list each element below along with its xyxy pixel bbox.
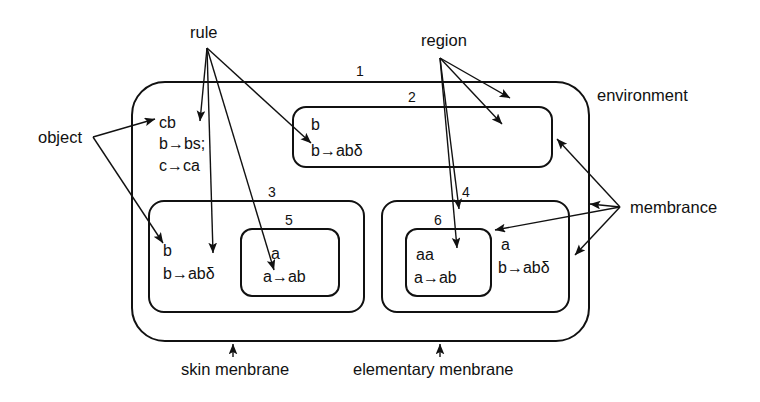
annotation-object: object	[38, 129, 82, 146]
membrane-1-rule-2: c→ca	[159, 155, 200, 176]
membrane-1-object: cb	[159, 112, 176, 133]
annotation-skin-membrane: skin menbrane	[181, 361, 289, 378]
membrane-3-rule: b→abδ	[163, 263, 215, 284]
diagram-canvas: 1 2 3 4 5 6 cb b→bs; c→ca b b→abδ b b→ab…	[0, 0, 760, 402]
annotation-environment: environment	[597, 87, 688, 104]
membrane-5-object: a	[271, 243, 280, 264]
membrane-5-rule: a→ab	[263, 266, 306, 287]
membrane-label-1: 1	[356, 64, 364, 78]
membrane-6-rule: a→ab	[414, 267, 457, 288]
membrane-1-rule-1: b→bs;	[159, 133, 205, 154]
annotation-membrance: membrance	[630, 199, 717, 216]
membrane-4-object: a	[501, 234, 510, 255]
membrane-label-4: 4	[462, 185, 470, 199]
membrane-label-2: 2	[408, 90, 416, 104]
membrane-2-object: b	[311, 114, 320, 135]
annotation-elementary-membrane: elementary menbrane	[353, 361, 514, 378]
membrane-label-3: 3	[268, 185, 276, 199]
membrane-label-5: 5	[285, 213, 293, 227]
arrow-membrance-to-skin	[590, 204, 620, 207]
membrane-2-rule: b→abδ	[311, 140, 363, 161]
membrane-3-object: b	[163, 240, 172, 261]
annotation-region: region	[421, 32, 467, 49]
annotation-rule: rule	[190, 24, 218, 41]
membrane-6-object: aa	[416, 244, 434, 265]
membrane-label-6: 6	[434, 213, 442, 227]
membrane-4-rule: b→abδ	[498, 257, 550, 278]
